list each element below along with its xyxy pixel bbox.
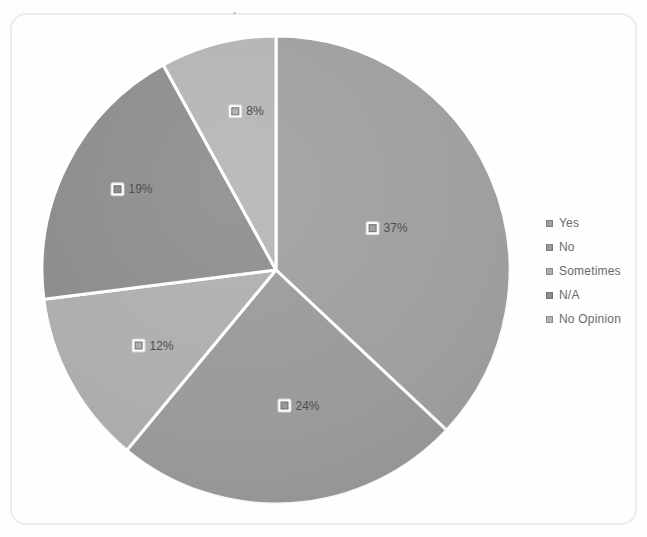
legend-item-yes: Yes [546, 216, 621, 230]
legend-label: Yes [559, 216, 579, 230]
label-legend-key-swatch [114, 186, 121, 193]
legend-swatch-yes [546, 220, 553, 227]
data-label-text: 37% [384, 221, 408, 235]
data-label-text: 19% [129, 182, 153, 196]
data-label-no: 24% [278, 399, 320, 413]
data-label-yes: 37% [366, 221, 408, 235]
pie-slices [42, 36, 510, 504]
legend-label: No Opinion [559, 312, 621, 326]
legend-label: N/A [559, 288, 580, 302]
data-label-no-opinion: 8% [229, 104, 264, 118]
legend-swatch-n-a [546, 292, 553, 299]
legend-item-sometimes: Sometimes [546, 264, 621, 278]
label-legend-key-swatch [281, 402, 288, 409]
legend: YesNoSometimesN/ANo Opinion [546, 216, 621, 336]
data-label-n-a: 19% [111, 182, 153, 196]
chart-image: 37%24%12%19%8% YesNoSometimesN/ANo Opini… [0, 0, 647, 537]
legend-label: Sometimes [559, 264, 621, 278]
data-label-sometimes: 12% [132, 339, 174, 353]
legend-label: No [559, 240, 575, 254]
label-legend-key-swatch [369, 225, 376, 232]
legend-item-n-a: N/A [546, 288, 621, 302]
legend-item-no-opinion: No Opinion [546, 312, 621, 326]
data-label-text: 12% [150, 339, 174, 353]
legend-item-no: No [546, 240, 621, 254]
label-legend-key-swatch [135, 342, 142, 349]
legend-swatch-sometimes [546, 268, 553, 275]
legend-swatch-no-opinion [546, 316, 553, 323]
data-label-text: 24% [296, 399, 320, 413]
label-legend-key-swatch [232, 108, 239, 115]
data-label-text: 8% [246, 104, 264, 118]
legend-swatch-no [546, 244, 553, 251]
